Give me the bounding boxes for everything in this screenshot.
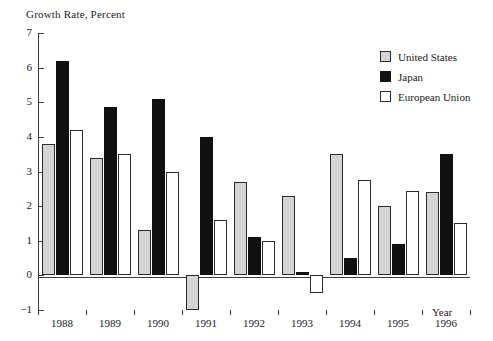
x-axis-tick: [470, 310, 471, 315]
legend-item-us: United States: [380, 48, 470, 65]
bar-eu-1993: [310, 275, 323, 292]
x-axis-tick: [230, 310, 231, 315]
x-axis-label-1995: 1995: [374, 317, 422, 329]
bar-jp-1990: [152, 99, 165, 276]
bar-eu-1995: [406, 191, 419, 276]
bar-jp-1988: [56, 61, 69, 276]
bar-eu-1989: [118, 154, 131, 275]
legend-label-us: United States: [398, 51, 457, 63]
y-axis-tick-label: 2: [6, 200, 32, 211]
bar-jp-1994: [344, 258, 357, 275]
legend-swatch-eu: [380, 91, 391, 102]
legend-label-eu: European Union: [398, 91, 470, 103]
x-axis-tick: [38, 310, 39, 315]
y-axis-tick-label: 7: [6, 27, 32, 38]
x-axis-tick: [374, 310, 375, 315]
bar-us-1993: [282, 196, 295, 276]
bar-jp-1996: [440, 154, 453, 275]
bar-us-1994: [330, 154, 343, 275]
y-axis-tick: [39, 310, 44, 311]
y-axis-tick-label: 6: [6, 62, 32, 73]
legend-label-jp: Japan: [398, 71, 423, 83]
bar-jp-1995: [392, 244, 405, 275]
bar-group: [86, 33, 134, 310]
bar-group: [38, 33, 86, 310]
bar-group: [134, 33, 182, 310]
legend-swatch-us: [380, 51, 391, 62]
bar-jp-1989: [104, 107, 117, 275]
y-axis-tick-label: 3: [6, 166, 32, 177]
y-axis-tick-label: 5: [6, 96, 32, 107]
bar-group: [278, 33, 326, 310]
bar-us-1995: [378, 206, 391, 275]
x-axis-label-1989: 1989: [86, 317, 134, 329]
chart-legend: United StatesJapanEuropean Union: [380, 48, 470, 108]
y-axis-tick-label: −1: [6, 304, 32, 315]
y-axis-title: Growth Rate, Percent: [26, 8, 125, 20]
y-axis-tick-label: 4: [6, 131, 32, 142]
bar-group: [182, 33, 230, 310]
x-axis-tick: [278, 310, 279, 315]
x-axis-tick: [86, 310, 87, 315]
bar-eu-1990: [166, 172, 179, 276]
legend-item-jp: Japan: [380, 68, 470, 85]
bar-us-1991: [186, 275, 199, 310]
legend-swatch-jp: [380, 71, 391, 82]
bar-us-1990: [138, 230, 151, 275]
x-axis-label-1996: 1996: [422, 317, 470, 329]
bar-us-1996: [426, 192, 439, 275]
x-axis-label-1990: 1990: [134, 317, 182, 329]
x-axis-tick: [326, 310, 327, 315]
bar-group: [326, 33, 374, 310]
x-axis-label-1988: 1988: [38, 317, 86, 329]
y-axis-tick-label: 0: [6, 269, 32, 280]
bar-eu-1991: [214, 220, 227, 275]
growth-rate-bar-chart: Growth Rate, Percent 76543210−1 19881989…: [0, 0, 493, 341]
bar-us-1992: [234, 182, 247, 275]
y-axis-tick-label: 1: [6, 235, 32, 246]
x-axis-label-1991: 1991: [182, 317, 230, 329]
x-axis-tick: [134, 310, 135, 315]
x-axis-label-1994: 1994: [326, 317, 374, 329]
x-axis-label-1993: 1993: [278, 317, 326, 329]
bar-group: [230, 33, 278, 310]
x-axis-tick: [422, 310, 423, 315]
bar-jp-1992: [248, 237, 261, 275]
x-axis-title: Year: [432, 306, 452, 318]
bar-eu-1992: [262, 241, 275, 276]
x-axis-tick: [182, 310, 183, 315]
bar-us-1988: [42, 144, 55, 276]
bar-jp-1993: [296, 272, 309, 275]
bar-eu-1988: [70, 130, 83, 275]
legend-item-eu: European Union: [380, 88, 470, 105]
bar-eu-1996: [454, 223, 467, 275]
bar-eu-1994: [358, 180, 371, 275]
x-axis-label-1992: 1992: [230, 317, 278, 329]
bar-us-1989: [90, 158, 103, 276]
bar-jp-1991: [200, 137, 213, 276]
